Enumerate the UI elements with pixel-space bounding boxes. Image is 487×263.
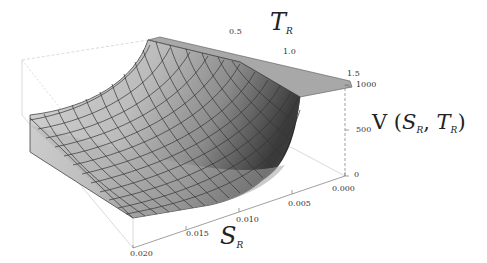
v-tick-1000: 1000 xyxy=(356,80,376,89)
s-axis-label: SR xyxy=(220,222,243,250)
s-tick-0-005: 0.005 xyxy=(288,199,311,208)
v-label-t: T xyxy=(437,110,451,134)
t-axis-label-sub: R xyxy=(286,26,293,36)
s-tick-0-020: 0.020 xyxy=(130,249,153,258)
v-axis-label: V (SR, TR) xyxy=(372,110,466,134)
s-tick-0-015: 0.015 xyxy=(186,229,209,238)
s-axis-label-main: S xyxy=(220,222,236,250)
v-tick-0: 0 xyxy=(354,170,359,179)
t-tick-1-0: 1.0 xyxy=(283,47,296,56)
t-tick-0-5: 0.5 xyxy=(229,27,242,36)
v-label-s: S xyxy=(402,110,416,134)
s-axis-label-sub: R xyxy=(236,240,243,250)
v-label-suffix: ) xyxy=(457,110,465,134)
t-tick-1-5: 1.5 xyxy=(347,69,360,78)
t-axis-label: TR xyxy=(270,8,293,36)
s-tick-0-000: 0.000 xyxy=(332,184,355,193)
v-label-s-sub: R xyxy=(416,125,423,135)
v-label-prefix: V ( xyxy=(372,110,402,134)
v-label-t-sub: R xyxy=(451,125,458,135)
t-axis-label-main: T xyxy=(270,8,286,36)
v-tick-500: 500 xyxy=(356,125,371,134)
z-axis-ticks xyxy=(345,85,349,176)
v-label-sep: , xyxy=(423,110,436,134)
